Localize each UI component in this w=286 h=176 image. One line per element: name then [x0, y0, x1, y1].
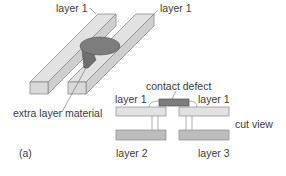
panel-label: (a) — [19, 147, 32, 159]
leader-layer1-left — [90, 8, 96, 14]
label-layer3: layer 3 — [198, 147, 230, 159]
label-cut-view: cut view — [235, 118, 273, 130]
leader-contact-defect — [172, 91, 176, 99]
label-cut-layer1-left: layer 1 — [115, 93, 147, 105]
label-layer2: layer 2 — [116, 147, 148, 159]
label-layer1-left: layer 1 — [56, 2, 88, 14]
cut-view — [116, 99, 229, 140]
label-extra-layer-material: extra layer material — [13, 107, 102, 119]
leader-layer1-right — [154, 10, 158, 14]
label-contact-defect: contact defect — [146, 80, 211, 92]
label-cut-layer1-right: layer 1 — [198, 93, 230, 105]
label-layer1-right: layer 1 — [160, 2, 192, 14]
